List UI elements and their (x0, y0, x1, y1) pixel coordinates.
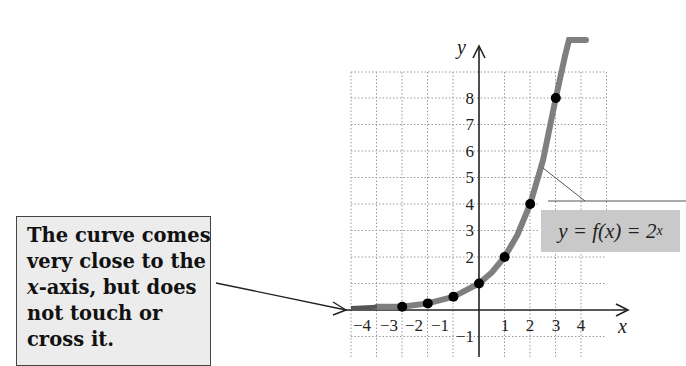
callout-line-3-rest: -axis, but does (39, 276, 197, 299)
svg-text:2: 2 (526, 316, 535, 335)
svg-text:−1: −1 (431, 316, 449, 335)
svg-text:6: 6 (466, 142, 475, 161)
callout-line-3: x-axis, but does (27, 275, 200, 301)
equation-label: y = f(x) = 2x (541, 210, 680, 252)
svg-text:7: 7 (466, 115, 475, 134)
svg-text:4: 4 (466, 195, 475, 214)
svg-text:5: 5 (466, 168, 475, 187)
svg-text:3: 3 (552, 316, 561, 335)
callout-line-1: The curve comes (27, 223, 200, 249)
svg-text:−4: −4 (353, 316, 372, 335)
equation-leader (543, 168, 686, 201)
y-axis-label: y (455, 36, 466, 59)
svg-text:8: 8 (466, 89, 475, 108)
callout-box: The curve comes very close to the x-axis… (16, 216, 211, 366)
equation-text: y = f(x) = 2 (558, 219, 656, 244)
svg-text:−2: −2 (405, 316, 423, 335)
svg-text:4: 4 (577, 316, 586, 335)
callout-arrow (216, 283, 346, 315)
equation-exponent: x (657, 223, 663, 239)
x-axis-label: x (617, 315, 627, 337)
callout-x-var: x (27, 276, 39, 299)
y-tick-labels: 8 7 6 5 4 3 2 −1 (456, 89, 475, 346)
callout-line-2: very close to the (27, 249, 200, 275)
curve-2-power-x (377, 40, 586, 307)
callout-line-5: cross it. (27, 327, 200, 353)
callout-line-4: not touch or (27, 301, 200, 327)
svg-text:2: 2 (466, 248, 475, 267)
svg-text:3: 3 (466, 221, 475, 240)
svg-text:−3: −3 (380, 316, 398, 335)
svg-text:1: 1 (501, 316, 510, 335)
svg-text:−1: −1 (456, 327, 474, 346)
